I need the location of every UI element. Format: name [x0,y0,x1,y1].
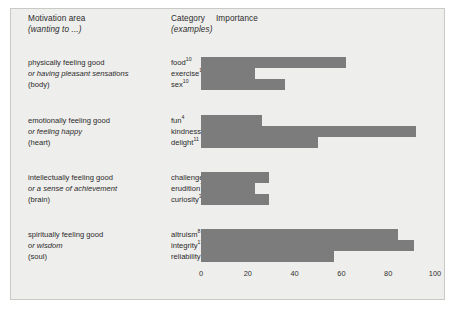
x-axis-tick-label: 40 [290,269,298,278]
motivation-area-line: (heart) [28,137,173,148]
motivation-area-line: or feeling happy [28,126,173,137]
x-axis-tick-label: 60 [337,269,345,278]
motivation-area-label: emotionally feeling goodor feeling happy… [28,115,173,149]
x-axis-tick-label: 80 [384,269,392,278]
motivation-area-line: (brain) [28,194,173,205]
category-reference-superscript: 11 [193,137,198,143]
x-axis-tick-label: 0 [199,269,203,278]
motivation-area-line: intellectually feeling good [28,172,173,183]
bar [201,229,398,240]
bar [201,57,346,68]
category-reference-superscript: 10 [183,79,189,85]
motivation-area-label: physically feeling goodor having pleasan… [28,57,173,91]
motivation-area-line: emotionally feeling good [28,115,173,126]
bar [201,240,414,251]
x-axis-tick-label: 100 [429,269,441,278]
motivation-area-line: or wisdom [28,240,173,251]
bar [201,137,318,148]
category-reference-superscript: 10 [186,56,192,62]
figure-panel: Motivation area (wanting to ...) Categor… [10,8,445,300]
motivation-area-line: (body) [28,79,173,90]
motivation-area-line: spiritually feeling good [28,229,173,240]
category-reference-superscript: 4 [182,114,185,120]
motivation-area-label: intellectually feeling goodor a sense of… [28,172,173,206]
header-category: Category (examples) [171,14,219,35]
column-headers: Motivation area (wanting to ...) Categor… [11,14,444,44]
motivation-area-line: physically feeling good [28,57,173,68]
motivation-area-line: or a sense of achievement [28,183,173,194]
bar [201,194,269,205]
bar [201,68,255,79]
bar [201,115,262,126]
motivation-area-line: or having pleasant sensations [28,68,173,79]
bar [201,79,285,90]
motivation-area-label: spiritually feeling goodor wisdom(soul) [28,229,173,263]
header-motivation-title: Motivation area [28,14,85,23]
header-category-title: Category [171,14,205,23]
x-axis: 020406080100 [201,267,435,287]
bar [201,126,416,137]
header-motivation-area: Motivation area (wanting to ...) [28,14,168,35]
x-axis-tick-label: 20 [244,269,252,278]
motivation-area-line: (soul) [28,251,173,262]
header-category-subtitle: (examples) [171,25,219,36]
header-importance: Importance [216,14,258,25]
header-importance-title: Importance [216,14,258,23]
header-motivation-subtitle: (wanting to ...) [28,25,168,36]
bar [201,183,255,194]
bar [201,172,269,183]
bar [201,251,334,262]
